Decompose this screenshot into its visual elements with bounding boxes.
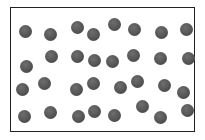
particle [87,28,100,41]
particle [44,106,57,119]
container-box [10,7,195,132]
particle [19,25,32,38]
particle [71,21,84,34]
particle [88,54,101,67]
particle [128,23,141,36]
particle [154,52,167,65]
particle [180,23,193,36]
particle [177,86,190,99]
particle [20,60,33,73]
particle [106,55,119,68]
particle [108,18,121,31]
particle [87,77,100,90]
particle [88,105,101,118]
particle [182,52,195,65]
particle [16,83,29,96]
cropped-caption-fragment [0,0,205,3]
particle [71,50,84,63]
particle [136,100,149,113]
particle [18,110,31,123]
particle [154,111,167,124]
particle [44,28,57,41]
particle [131,75,144,88]
particle [114,81,127,94]
particle [70,83,83,96]
particle [155,26,168,39]
particle [45,50,58,63]
particle [181,104,194,117]
particle [72,110,85,123]
particle [127,49,140,62]
particle [38,77,51,90]
particle [108,109,121,122]
particle [158,79,171,92]
